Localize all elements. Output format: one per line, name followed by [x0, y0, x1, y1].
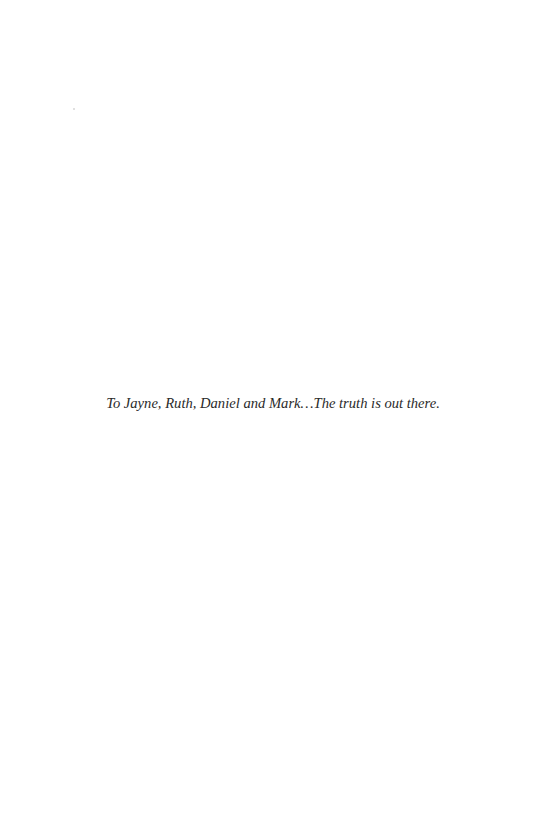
dedication-text: To Jayne, Ruth, Daniel and Mark…The trut… [0, 393, 546, 413]
page-speck-mark [73, 108, 75, 110]
book-page: To Jayne, Ruth, Daniel and Mark…The trut… [0, 0, 546, 835]
